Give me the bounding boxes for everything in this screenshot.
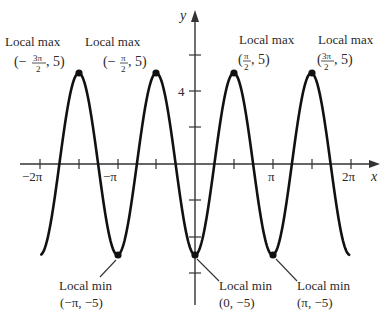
annotation-coord: (0, −5) xyxy=(219,295,255,310)
annotation-title: Local min xyxy=(297,278,351,293)
y-axis: 4 y xyxy=(178,8,201,305)
local-max-point xyxy=(75,69,82,76)
annotation-title: Local max xyxy=(318,32,374,47)
annotation-max-2: Local max (− π 2 , 5) xyxy=(85,34,147,74)
frac-num: π xyxy=(244,51,249,61)
local-max-point xyxy=(152,69,159,76)
chart-canvas: −2π −π π 2π x 4 y xyxy=(0,0,388,316)
coord-close: , 5) xyxy=(128,54,147,70)
annotation-min-1: Local min (−π, −5) xyxy=(59,278,113,310)
local-max-point xyxy=(308,69,315,76)
local-min-point xyxy=(114,251,121,258)
annotation-title: Local min xyxy=(219,278,273,293)
x-tick-label-2pi: 2π xyxy=(342,169,356,184)
annotation-max-3: Local max ( π 2 , 5) xyxy=(238,32,295,72)
frac-den: 2 xyxy=(244,62,249,72)
frac-den: 2 xyxy=(324,62,329,72)
coord-close: , 5) xyxy=(46,54,65,70)
coord-open: (− xyxy=(14,54,27,70)
local-max-point xyxy=(230,69,237,76)
annotation-title: Local max xyxy=(5,34,61,49)
coord-close: , 5) xyxy=(334,52,353,68)
y-axis-label: y xyxy=(178,8,187,23)
annotation-title: Local min xyxy=(59,278,113,293)
x-tick-label-pi: π xyxy=(268,169,275,184)
x-tick-label-neg2pi: −2π xyxy=(22,169,43,184)
local-min-point xyxy=(191,251,198,258)
annotation-min-2: Local min (0, −5) xyxy=(219,278,273,310)
y-axis-arrow-icon xyxy=(191,10,199,22)
annotation-coord: (π, −5) xyxy=(297,295,333,310)
frac-num: π xyxy=(121,53,126,63)
x-axis-label: x xyxy=(370,169,378,184)
annotation-title: Local max xyxy=(85,34,141,49)
local-min-point xyxy=(269,251,276,258)
coord-close: , 5) xyxy=(251,52,270,68)
frac-num: 3π xyxy=(322,51,332,61)
annotation-max-4: Local max ( 3π 2 , 5) xyxy=(317,32,374,72)
frac-den: 2 xyxy=(36,64,41,74)
annotation-max-1: Local max (− 3π 2 , 5) xyxy=(5,34,65,74)
x-tick-label-negpi: −π xyxy=(103,169,117,184)
x-axis: −2π −π π 2π x xyxy=(20,159,380,184)
annotation-coord: (−π, −5) xyxy=(60,295,103,310)
coord-open: ( xyxy=(238,52,243,68)
frac-num: 3π xyxy=(33,53,43,63)
frac-den: 2 xyxy=(121,64,126,74)
y-tick-label-4: 4 xyxy=(178,84,185,99)
coord-open: (− xyxy=(103,54,116,70)
annotation-min-3: Local min (π, −5) xyxy=(297,278,351,310)
x-axis-arrow-icon xyxy=(369,160,380,168)
annotation-title: Local max xyxy=(239,32,295,47)
